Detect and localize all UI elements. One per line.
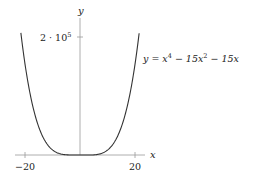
- chart: y x 2 · 105 −20 20 y = x4 − 15x2 − 15x: [0, 0, 259, 182]
- y-axis-label: y: [77, 5, 84, 16]
- x-axis-label: x: [150, 149, 156, 160]
- x-tick-label-20: 20: [129, 161, 141, 172]
- equation-label: y = x4 − 15x2 − 15x: [142, 52, 240, 64]
- x-tick-label-neg20: −20: [15, 161, 35, 172]
- y-tick-label: 2 · 105: [40, 31, 71, 43]
